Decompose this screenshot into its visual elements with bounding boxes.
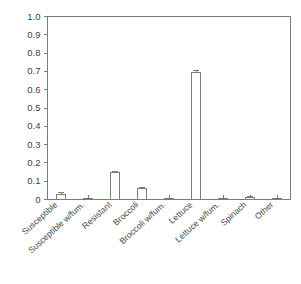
bar bbox=[56, 194, 66, 199]
y-tick-label: 0.4 bbox=[27, 120, 40, 131]
y-tick-label: 1.0 bbox=[27, 11, 40, 22]
bar bbox=[110, 173, 120, 200]
bar bbox=[137, 189, 147, 200]
bar bbox=[245, 197, 255, 199]
y-tick-label: 0.6 bbox=[27, 84, 40, 95]
y-axis-tick-labels: 1.00.90.80.70.60.50.40.30.20.10 bbox=[27, 11, 40, 205]
bar-chart: 1.00.90.80.70.60.50.40.30.20.10 Suscepti… bbox=[0, 0, 301, 284]
chart-canvas: 1.00.90.80.70.60.50.40.30.20.10 Suscepti… bbox=[0, 0, 301, 284]
bar bbox=[191, 72, 201, 199]
y-tick-label: 0.8 bbox=[27, 47, 40, 58]
y-tick-label: 0.7 bbox=[27, 65, 40, 76]
y-tick-label: 0.5 bbox=[27, 102, 40, 113]
y-tick-label: 0.1 bbox=[27, 175, 40, 186]
y-tick-label: 0.2 bbox=[27, 157, 40, 168]
y-tick-label: 0 bbox=[35, 194, 40, 205]
y-tick-label: 0.3 bbox=[27, 139, 40, 150]
y-tick-label: 0.9 bbox=[27, 29, 40, 40]
